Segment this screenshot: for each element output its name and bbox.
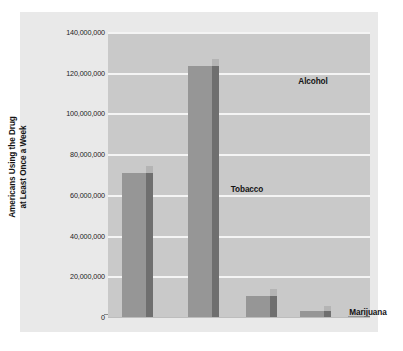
bar-alcohol-side <box>212 66 219 319</box>
bar-marijuana[interactable] <box>246 296 277 318</box>
y-tick-label-20m: 20,000,000 <box>20 273 105 281</box>
y-tick-label-60m: 60,000,000 <box>20 192 105 200</box>
bar-chart-figure: Americans Using the Drug at Least Once a… <box>0 0 403 351</box>
y-tick-label-40m: 40,000,000 <box>20 233 105 241</box>
y-axis-tick-labels: 140,000,000 120,000,000 100,000,000 80,0… <box>20 21 105 321</box>
y-axis-tick-zero <box>104 314 108 315</box>
y-tick-label-120m: 120,000,000 <box>20 70 105 78</box>
bar-alcohol-top <box>212 59 219 66</box>
bar-label-cocaine-and-crack: Cocaine and Crack <box>393 295 403 324</box>
bar-label-alcohol: Alcohol <box>282 77 344 87</box>
y-tick-label-100m: 100,000,000 <box>20 110 105 118</box>
y-tick-label-140m: 140,000,000 <box>20 29 105 37</box>
y-tick-label-0: 0 <box>20 314 105 322</box>
y-tick-label-80m: 80,000,000 <box>20 151 105 159</box>
x-axis-baseline <box>108 317 370 318</box>
bars-layer: Tobacco Alcohol Marijuana Cocaine a <box>108 33 370 318</box>
bar-tobacco[interactable] <box>122 173 153 318</box>
plot-area: Tobacco Alcohol Marijuana Cocaine a <box>108 33 370 318</box>
bar-tobacco-side <box>146 173 153 318</box>
bar-marijuana-side <box>270 296 277 318</box>
bar-cocaine-top <box>324 306 331 311</box>
bar-marijuana-top <box>270 289 277 296</box>
bar-alcohol[interactable] <box>188 66 219 319</box>
bar-tobacco-top <box>146 166 153 173</box>
bar-label-tobacco: Tobacco <box>216 185 278 195</box>
